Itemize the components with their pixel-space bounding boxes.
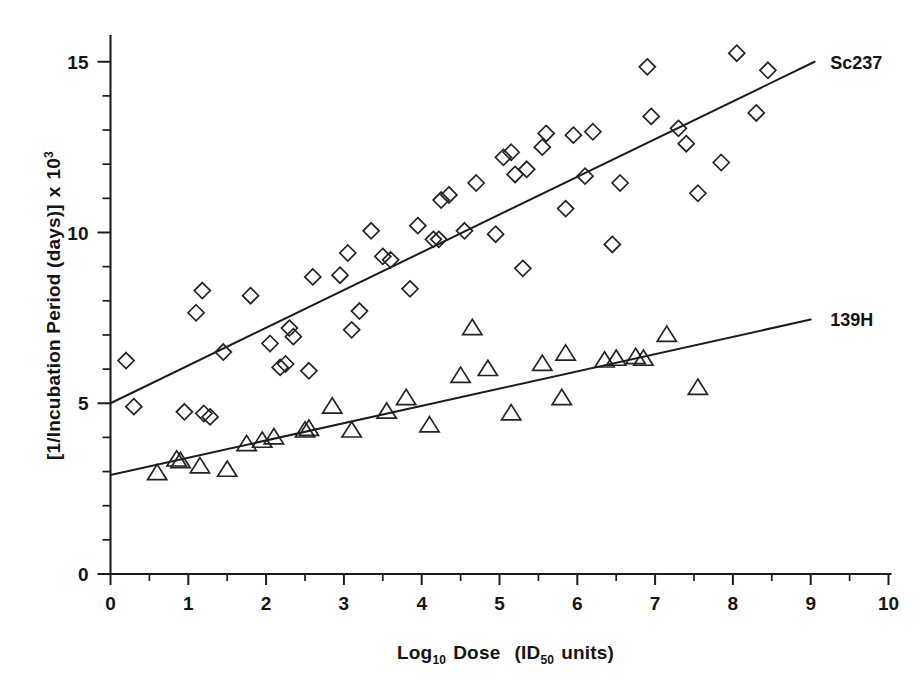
- series-label-Sc237: Sc237: [830, 53, 882, 73]
- x-tick-label-8: 8: [728, 593, 739, 614]
- data-point-Sc237-20: [363, 223, 379, 239]
- x-tick-label-0: 0: [105, 593, 116, 614]
- data-point-Sc237-37: [534, 139, 550, 155]
- data-point-Sc237-8: [243, 288, 259, 304]
- data-point-139H-18: [502, 405, 521, 420]
- data-point-139H-11: [342, 422, 361, 437]
- data-point-139H-27: [688, 379, 707, 394]
- data-point-139H-15: [451, 367, 470, 382]
- ticks-group: [98, 62, 889, 585]
- data-point-Sc237-2: [176, 404, 192, 420]
- data-point-Sc237-31: [488, 226, 504, 242]
- data-point-Sc237-23: [402, 281, 418, 297]
- data-point-139H-3: [190, 458, 209, 473]
- tick-labels-group: 012345678910051015: [67, 52, 899, 614]
- x-axis-title-dose: Dose: [453, 642, 500, 663]
- x-axis-title-log-subscript: 10: [432, 653, 446, 667]
- data-point-Sc237-44: [612, 175, 628, 191]
- x-axis-title-id-subscript: 50: [540, 653, 554, 667]
- series-Sc237: [118, 45, 776, 425]
- y-axis-title-prefix: [1/Incubation Period (days)]: [43, 204, 64, 460]
- data-point-Sc237-53: [760, 62, 776, 78]
- plot-canvas: 012345678910051015 Sc237139H: [0, 0, 920, 692]
- y-tick-label-5: 5: [78, 393, 89, 414]
- y-tick-label-0: 0: [78, 564, 89, 585]
- data-point-139H-13: [397, 389, 416, 404]
- data-point-Sc237-16: [332, 267, 348, 283]
- data-point-Sc237-24: [410, 218, 426, 234]
- data-point-Sc237-6: [188, 305, 204, 321]
- data-point-Sc237-36: [515, 260, 531, 276]
- data-point-139H-26: [657, 326, 676, 341]
- data-point-139H-16: [463, 319, 482, 334]
- data-point-139H-21: [552, 389, 571, 404]
- data-point-Sc237-45: [639, 59, 655, 75]
- y-tick-label-15: 15: [67, 52, 89, 73]
- x-tick-label-5: 5: [494, 593, 505, 614]
- data-point-Sc237-18: [351, 303, 367, 319]
- data-point-139H-19: [533, 355, 552, 370]
- series-139H: [148, 319, 708, 479]
- data-point-Sc237-38: [538, 125, 554, 141]
- y-tick-label-10: 10: [67, 223, 88, 244]
- data-point-Sc237-52: [748, 105, 764, 121]
- data-point-Sc237-14: [305, 269, 321, 285]
- series-label-139H: 139H: [830, 310, 873, 330]
- data-point-Sc237-49: [690, 185, 706, 201]
- data-point-Sc237-41: [585, 124, 601, 140]
- y-axis-title-base: 10: [43, 157, 64, 179]
- data-point-Sc237-30: [468, 175, 484, 191]
- data-point-Sc237-21: [375, 248, 391, 264]
- data-point-Sc237-15: [301, 363, 317, 379]
- x-tick-label-6: 6: [572, 593, 583, 614]
- data-point-Sc237-46: [643, 108, 659, 124]
- data-point-Sc237-0: [118, 353, 134, 369]
- data-points-group: [118, 45, 776, 479]
- data-point-139H-7: [264, 429, 283, 444]
- data-point-139H-14: [420, 417, 439, 432]
- data-point-Sc237-9: [262, 335, 278, 351]
- data-point-Sc237-33: [507, 166, 523, 182]
- data-point-Sc237-39: [558, 201, 574, 217]
- data-point-Sc237-48: [678, 136, 694, 152]
- y-axis-title-multiplier: x: [43, 186, 64, 197]
- data-point-Sc237-5: [194, 283, 210, 299]
- x-tick-label-10: 10: [878, 593, 899, 614]
- x-tick-label-3: 3: [339, 593, 350, 614]
- data-point-139H-17: [478, 360, 497, 375]
- data-point-Sc237-19: [344, 322, 360, 338]
- x-axis-title-open-paren-id: (ID: [514, 642, 540, 663]
- x-axis-title: Log10Dose(ID50units): [397, 642, 614, 667]
- x-tick-label-4: 4: [416, 593, 427, 614]
- y-axis-title-exponent: 3: [42, 151, 56, 158]
- data-point-Sc237-51: [729, 45, 745, 61]
- data-point-Sc237-50: [713, 154, 729, 170]
- trend-line-139H: [111, 320, 811, 475]
- data-point-Sc237-17: [340, 245, 356, 261]
- data-point-Sc237-40: [565, 127, 581, 143]
- x-tick-label-1: 1: [183, 593, 194, 614]
- data-point-139H-4: [218, 461, 237, 476]
- data-point-Sc237-35: [519, 161, 535, 177]
- figure-scatter-incubation-vs-dose: 012345678910051015 Sc237139H [1/Incubati…: [0, 0, 920, 692]
- y-axis-title-text: [1/Incubation Period (days)]x103: [42, 151, 65, 460]
- x-tick-label-9: 9: [805, 593, 816, 614]
- data-point-Sc237-43: [604, 236, 620, 252]
- x-tick-label-2: 2: [261, 593, 272, 614]
- x-axis-title-units: units): [561, 642, 614, 663]
- x-tick-label-7: 7: [650, 593, 661, 614]
- data-point-139H-20: [556, 345, 575, 360]
- series-labels-group: Sc237139H: [830, 53, 882, 329]
- x-axis-title-log: Log: [397, 642, 432, 663]
- trend-lines-group: [111, 62, 815, 475]
- data-point-139H-10: [323, 398, 342, 413]
- data-point-Sc237-1: [126, 399, 142, 415]
- axes-group: [111, 36, 891, 574]
